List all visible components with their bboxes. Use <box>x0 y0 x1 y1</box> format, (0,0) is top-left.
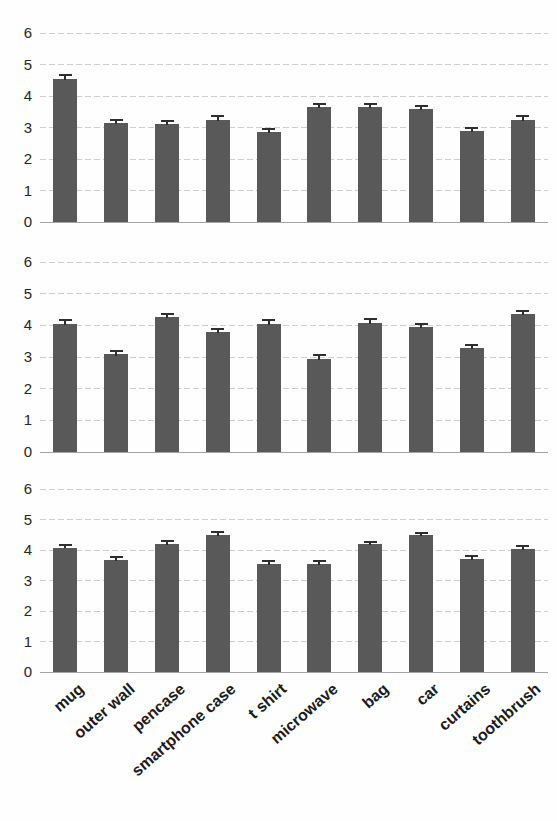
bar <box>53 79 77 222</box>
error-bar-cap-top <box>364 541 377 543</box>
error-bar <box>110 119 123 124</box>
y-axis-tick-label: 3 <box>10 573 32 588</box>
bar-chart-figure: 012345601234560123456 mugouter wallpenca… <box>0 0 557 821</box>
bar <box>409 535 433 672</box>
error-bar-cap-top <box>59 544 72 546</box>
y-axis-tick-label: 3 <box>10 349 32 364</box>
error-bar <box>262 319 275 325</box>
error-bar <box>110 556 123 561</box>
y-axis-tick-label: 1 <box>10 183 32 198</box>
gridline-y-6 <box>40 33 548 34</box>
gridline-y-4 <box>40 550 548 551</box>
error-bar <box>364 541 377 545</box>
error-bar <box>161 120 174 125</box>
error-bar-cap-top <box>59 319 72 321</box>
error-bar <box>211 531 224 536</box>
error-bar <box>516 115 529 121</box>
bar <box>358 544 382 672</box>
error-bar <box>415 532 428 537</box>
bar <box>206 535 230 672</box>
error-bar <box>211 115 224 121</box>
error-bar-cap-top <box>415 105 428 107</box>
y-axis-tick-label: 5 <box>10 57 32 72</box>
bar <box>104 123 128 222</box>
bar <box>460 131 484 222</box>
x-axis-category-labels: mugouter wallpencasesmartphone caset shi… <box>0 676 557 821</box>
error-bar <box>313 103 326 108</box>
error-bar <box>59 544 72 549</box>
bar <box>460 348 484 452</box>
y-axis-tick-label: 5 <box>10 512 32 527</box>
bar <box>358 323 382 452</box>
error-bar <box>262 560 275 564</box>
error-bar-cap-top <box>161 540 174 542</box>
y-axis-tick-label: 2 <box>10 151 32 166</box>
gridline-y-5 <box>40 64 548 65</box>
bar <box>206 332 230 452</box>
y-axis-tick-label: 2 <box>10 603 32 618</box>
error-bar <box>364 318 377 324</box>
error-bar-cap-top <box>415 323 428 325</box>
y-axis-tick-label: 0 <box>10 214 32 229</box>
error-bar <box>313 560 326 565</box>
error-bar-cap-top <box>262 560 275 562</box>
error-bar-cap-top <box>313 354 326 356</box>
bar <box>257 564 281 672</box>
error-bar <box>211 328 224 334</box>
error-bar-cap-top <box>211 328 224 330</box>
error-bar-cap-top <box>465 127 478 129</box>
gridline-y-0 <box>40 452 548 453</box>
error-bar <box>516 545 529 550</box>
bar <box>155 544 179 672</box>
error-bar-cap-top <box>59 74 72 76</box>
x-axis-category-label: car <box>413 680 443 709</box>
y-axis-tick-label: 2 <box>10 381 32 396</box>
y-axis-tick-label: 4 <box>10 542 32 557</box>
error-bar <box>110 350 123 356</box>
error-bar-cap-top <box>110 350 123 352</box>
error-bar-cap-top <box>262 128 275 130</box>
bar <box>511 314 535 452</box>
error-bar <box>161 540 174 545</box>
bar <box>307 359 331 452</box>
bar <box>409 327 433 452</box>
error-bar <box>465 344 478 350</box>
bar <box>511 120 535 222</box>
error-bar-cap-top <box>262 319 275 321</box>
error-bar <box>313 354 326 360</box>
error-bar-cap-top <box>516 115 529 117</box>
error-bar-cap-top <box>110 556 123 558</box>
gridline-y-5 <box>40 519 548 520</box>
bar <box>257 324 281 452</box>
error-bar-cap-top <box>415 532 428 534</box>
gridline-y-0 <box>40 222 548 223</box>
x-axis-category-label: bag <box>359 680 392 712</box>
bar <box>460 559 484 672</box>
error-bar <box>415 323 428 328</box>
bar <box>409 109 433 222</box>
bar <box>155 317 179 452</box>
gridline-y-4 <box>40 96 548 97</box>
error-bar-cap-top <box>161 313 174 315</box>
bar <box>53 324 77 452</box>
y-axis-tick-label: 1 <box>10 634 32 649</box>
y-axis-tick-label: 1 <box>10 412 32 427</box>
error-bar-cap-top <box>465 555 478 557</box>
y-axis-tick-label: 6 <box>10 25 32 40</box>
y-axis-tick-label: 4 <box>10 88 32 103</box>
gridline-y-6 <box>40 489 548 490</box>
error-bar-cap-top <box>465 344 478 346</box>
error-bar <box>516 310 529 316</box>
bar <box>104 560 128 672</box>
error-bar <box>465 555 478 560</box>
error-bar-cap-top <box>364 318 377 320</box>
bar <box>358 107 382 222</box>
gridline-y-6 <box>40 262 548 263</box>
bar <box>307 107 331 222</box>
y-axis-tick-label: 6 <box>10 254 32 269</box>
gridline-y-5 <box>40 293 548 294</box>
bar <box>206 120 230 222</box>
y-axis-tick-label: 6 <box>10 481 32 496</box>
bar <box>307 564 331 672</box>
error-bar-cap-top <box>110 119 123 121</box>
